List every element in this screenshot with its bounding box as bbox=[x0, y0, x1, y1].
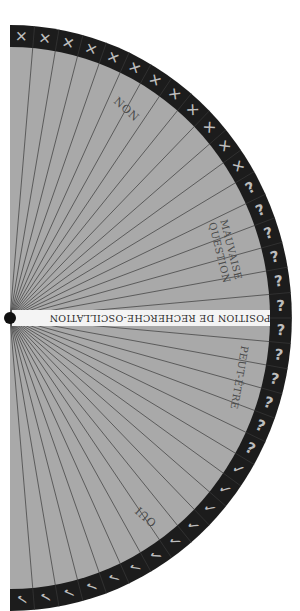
x-icon: ✕ bbox=[36, 31, 55, 46]
question-mark-icon: ? bbox=[276, 297, 285, 315]
check-icon: ✓ bbox=[13, 593, 32, 606]
pendulum-dial-chart: ✕✕✕✕✕✕✕✕✕✕✕✕????????????✓✓✓✓✓✓✓✓✓✓✓✓ NON… bbox=[0, 0, 300, 611]
check-icon: ✓ bbox=[36, 590, 55, 605]
search-oscillation-strip: POSITION DE RECHERCHE-OSCILLATION bbox=[12, 310, 271, 326]
strip-label: POSITION DE RECHERCHE-OSCILLATION bbox=[49, 313, 270, 324]
question-mark-icon: ? bbox=[276, 321, 285, 339]
x-icon: ✕ bbox=[13, 30, 32, 43]
pivot-dot bbox=[4, 312, 16, 324]
